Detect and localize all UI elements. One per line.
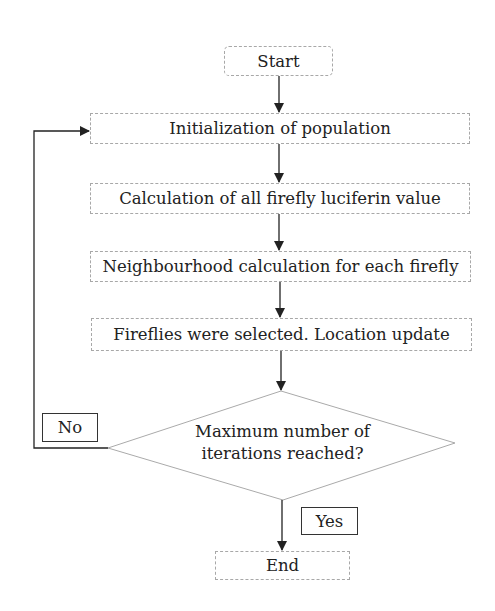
start-label: Start — [257, 52, 299, 71]
decision-line-2: iterations reached? — [160, 443, 405, 465]
selection-label: Fireflies were selected. Location update — [113, 325, 450, 344]
calc-node: Calculation of all firefly luciferin val… — [90, 183, 470, 214]
no-label-text: No — [58, 418, 82, 437]
end-node: End — [215, 551, 350, 580]
init-node: Initialization of population — [90, 113, 470, 144]
yes-label: Yes — [301, 507, 358, 535]
start-node: Start — [224, 46, 333, 76]
connector-layer — [0, 0, 495, 611]
arrow-no-loop — [34, 131, 108, 448]
init-label: Initialization of population — [169, 119, 391, 138]
neighbourhood-label: Neighbourhood calculation for each firef… — [103, 257, 459, 276]
selection-node: Fireflies were selected. Location update — [91, 318, 472, 351]
end-label: End — [266, 556, 299, 575]
calc-label: Calculation of all firefly luciferin val… — [119, 189, 441, 208]
yes-label-text: Yes — [316, 512, 344, 531]
neighbourhood-node: Neighbourhood calculation for each firef… — [90, 251, 471, 282]
decision-text: Maximum number of iterations reached? — [160, 421, 405, 465]
no-label: No — [42, 413, 98, 442]
decision-line-1: Maximum number of — [160, 421, 405, 443]
